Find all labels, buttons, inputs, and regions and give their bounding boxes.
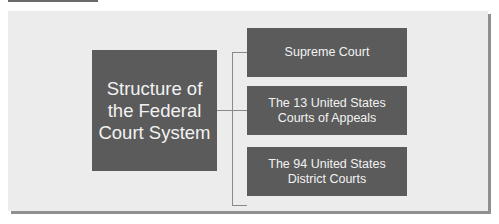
connector-branch-1 — [232, 52, 247, 53]
node-courts-of-appeals: The 13 United States Courts of Appeals — [247, 86, 407, 135]
node-supreme-court: Supreme Court — [247, 28, 407, 77]
connector-root-stub — [217, 110, 232, 111]
connector-branch-3 — [232, 205, 247, 206]
root-node-federal-court-system: Structure of the Federal Court System — [92, 50, 217, 171]
node-district-courts: The 94 United States District Courts — [247, 147, 407, 196]
node-label-line: Supreme Court — [285, 45, 370, 60]
node-label-line: The 13 United States — [268, 96, 385, 111]
node-label-line: The 94 United States — [268, 157, 385, 172]
root-label-line: Court System — [98, 122, 210, 144]
node-label-line: Courts of Appeals — [268, 111, 385, 126]
root-label-line: the Federal — [98, 100, 210, 122]
node-label-line: District Courts — [268, 172, 385, 187]
root-label-line: Structure of — [98, 78, 210, 100]
top-rule — [8, 0, 98, 2]
connector-trunk — [232, 52, 233, 205]
connector-branch-2 — [232, 110, 247, 111]
